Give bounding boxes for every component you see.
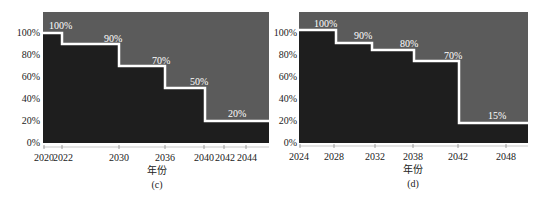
chart-c-ytick: 20% xyxy=(22,115,40,126)
chart-c-ytick: 0% xyxy=(27,137,40,148)
chart-d-x-labels: 2024 2028 2032 2038 2042 2048 xyxy=(289,151,516,162)
chart-c-xtick: 2036 xyxy=(155,152,175,163)
chart-d-label-100: 100% xyxy=(314,18,337,29)
chart-c-ytick: 80% xyxy=(22,49,40,60)
chart-c-label-90: 90% xyxy=(104,33,122,44)
chart-d-caption: (d) xyxy=(407,178,419,190)
chart-d-xtick: 2032 xyxy=(365,151,385,162)
chart-c-ytick: 60% xyxy=(22,71,40,82)
chart-c-xtick: 2022 xyxy=(53,152,73,163)
chart-d-xtick: 2028 xyxy=(324,151,344,162)
chart-c-label-50: 50% xyxy=(190,76,208,87)
chart-d-xtick: 2048 xyxy=(496,151,516,162)
chart-c-ytick: 100% xyxy=(17,27,40,38)
chart-d-ytick: 100% xyxy=(274,27,297,38)
chart-d-ytick: 60% xyxy=(279,71,297,82)
chart-d: 100% 90% 80% 70% 15% 0% 20% 40% 60% 80% … xyxy=(274,12,528,190)
chart-d-xlabel: 年份 xyxy=(403,163,423,175)
chart-c-xtick: 2042 xyxy=(215,152,235,163)
chart-d-ytick: 40% xyxy=(279,93,297,104)
chart-c: 100% 90% 70% 50% 20% 0% 20% 40% 60% 80% … xyxy=(17,12,269,191)
chart-d-xtick: 2024 xyxy=(289,151,309,162)
figure: 100% 90% 70% 50% 20% 0% 20% 40% 60% 80% … xyxy=(0,0,549,203)
chart-c-label-70: 70% xyxy=(152,55,170,66)
chart-d-label-80: 80% xyxy=(400,38,418,49)
chart-c-xtick: 2020 xyxy=(34,152,54,163)
chart-d-label-90: 90% xyxy=(354,30,372,41)
chart-c-caption: (c) xyxy=(151,179,162,191)
chart-d-ytick: 0% xyxy=(284,137,297,148)
chart-d-xtick: 2038 xyxy=(403,151,423,162)
chart-d-ytick: 80% xyxy=(279,49,297,60)
chart-c-ytick: 40% xyxy=(22,93,40,104)
charts-svg: 100% 90% 70% 50% 20% 0% 20% 40% 60% 80% … xyxy=(0,0,549,203)
chart-d-ytick: 20% xyxy=(279,115,297,126)
chart-c-xtick: 2040 xyxy=(194,152,214,163)
chart-c-xlabel: 年份 xyxy=(147,164,167,176)
chart-c-label-100: 100% xyxy=(49,20,72,31)
chart-c-label-20: 20% xyxy=(228,108,246,119)
chart-c-y-axis: 0% 20% 40% 60% 80% 100% xyxy=(17,27,40,148)
chart-d-y-axis: 0% 20% 40% 60% 80% 100% xyxy=(274,27,297,148)
chart-c-xtick: 2030 xyxy=(109,152,129,163)
chart-c-x-labels: 2020 2022 2030 2036 2040 2042 2044 xyxy=(34,152,257,163)
chart-d-xtick: 2042 xyxy=(448,151,468,162)
chart-c-xtick: 2044 xyxy=(237,152,257,163)
chart-d-label-70: 70% xyxy=(444,50,462,61)
chart-d-label-15: 15% xyxy=(488,110,506,121)
